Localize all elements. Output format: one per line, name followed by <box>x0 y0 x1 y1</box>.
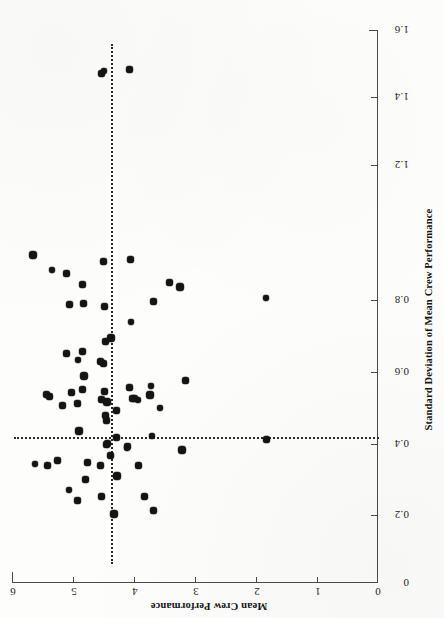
x-tick-label-0.4: 0.4 <box>383 438 409 450</box>
x-axis-line <box>377 30 378 583</box>
data-point <box>100 258 107 265</box>
data-point <box>44 462 51 469</box>
data-point <box>82 476 89 483</box>
data-point <box>107 334 115 342</box>
data-point <box>113 407 120 414</box>
data-point <box>80 372 88 380</box>
reference-line-mean-crew-performance <box>111 44 113 564</box>
y-tick-3 <box>195 577 196 583</box>
x-tick-label-0.8: 0.8 <box>383 294 409 306</box>
data-point <box>79 281 86 288</box>
data-point <box>29 251 37 259</box>
data-point <box>101 68 107 74</box>
x-tick-label-0.6: 0.6 <box>383 366 409 378</box>
x-tick-0.8 <box>371 300 378 301</box>
data-point <box>43 391 50 398</box>
data-point <box>263 436 270 443</box>
scatter-plot: 6 5 4 3 2 1 0 Mean Crew Performance 1.6 … <box>0 0 444 618</box>
x-tick-label-1.6: 1.6 <box>383 24 409 36</box>
x-tick-0.4 <box>371 444 378 445</box>
data-point <box>49 267 55 273</box>
data-point <box>97 462 104 469</box>
y-axis-title: Mean Crew Performance <box>129 601 289 612</box>
data-point <box>113 434 120 441</box>
data-point <box>148 383 154 389</box>
data-point <box>141 493 148 500</box>
data-point <box>110 510 118 518</box>
data-point <box>150 298 157 305</box>
y-tick-0 <box>377 577 378 583</box>
data-point <box>107 452 114 459</box>
data-point <box>75 357 81 363</box>
data-point <box>32 461 38 467</box>
y-tick-label-4: 4 <box>128 586 142 598</box>
y-tick-label-3: 3 <box>189 586 203 598</box>
data-point <box>104 440 111 447</box>
data-point <box>157 405 163 411</box>
y-tick-label-6: 6 <box>6 586 20 598</box>
data-point <box>98 493 105 500</box>
data-point <box>63 270 70 277</box>
y-tick-6 <box>12 575 13 583</box>
x-tick-0.2 <box>371 515 378 516</box>
data-point <box>66 301 73 308</box>
data-point <box>74 400 81 407</box>
data-point <box>102 412 109 419</box>
data-point <box>126 66 133 73</box>
data-point <box>166 279 173 286</box>
figure-page: 6 5 4 3 2 1 0 Mean Crew Performance 1.6 … <box>0 0 444 618</box>
x-tick-label-0.2: 0.2 <box>383 509 409 521</box>
data-point <box>126 384 133 391</box>
data-point <box>101 303 108 310</box>
data-point <box>80 300 87 307</box>
y-tick-label-5: 5 <box>67 586 81 598</box>
x-tick-label-1.4: 1.4 <box>383 91 409 103</box>
data-point <box>59 402 66 409</box>
data-point <box>263 295 269 301</box>
x-tick-0.6 <box>371 372 378 373</box>
x-tick-label-1.2: 1.2 <box>383 159 409 171</box>
y-tick-2 <box>256 577 257 583</box>
data-point <box>79 348 86 355</box>
data-point <box>66 487 72 493</box>
data-point <box>113 472 121 480</box>
data-point <box>97 358 104 365</box>
data-point <box>101 388 108 395</box>
data-point <box>84 459 91 466</box>
reference-line-standard-deviation <box>14 437 379 439</box>
y-tick-4 <box>134 577 135 583</box>
x-tick-1.2 <box>371 165 378 166</box>
y-tick-1 <box>317 577 318 583</box>
data-point <box>178 446 186 454</box>
data-point <box>127 256 134 263</box>
data-point <box>74 497 81 504</box>
data-point <box>124 443 131 450</box>
data-point <box>146 391 154 399</box>
data-point <box>176 283 184 291</box>
data-point <box>63 350 70 357</box>
data-point <box>79 386 86 393</box>
y-tick-5 <box>73 577 74 583</box>
data-point <box>135 462 142 469</box>
data-point <box>182 377 189 384</box>
data-point <box>54 457 61 464</box>
data-point <box>129 395 136 402</box>
y-tick-label-2: 2 <box>250 586 264 598</box>
data-point <box>150 507 157 514</box>
x-axis-title: Standard Deviation of Mean Crew Performa… <box>423 241 434 431</box>
data-point <box>75 427 83 435</box>
x-tick-1.4 <box>371 97 378 98</box>
y-tick-label-1: 1 <box>311 586 325 598</box>
data-point <box>128 319 134 325</box>
x-tick-1.6 <box>369 30 378 31</box>
data-point <box>68 389 75 396</box>
x-tick-label-0: 0 <box>383 577 409 589</box>
data-point <box>98 396 105 403</box>
